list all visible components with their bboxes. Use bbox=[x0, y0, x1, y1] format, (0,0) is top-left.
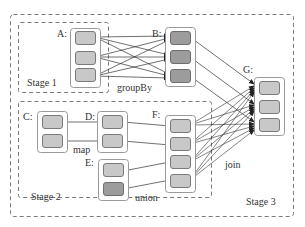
rdd-d-label: D: bbox=[85, 111, 95, 122]
rdd-a-partition-1 bbox=[76, 32, 96, 45]
rdd-b-partition-3 bbox=[171, 70, 191, 83]
rdd-f-partition-2 bbox=[171, 138, 191, 151]
stage-1-label: Stage 1 bbox=[27, 77, 57, 88]
rdd-g-partition-3 bbox=[260, 119, 280, 132]
rdd-b-label: B: bbox=[152, 28, 161, 39]
rdd-f: F: bbox=[152, 109, 196, 193]
rdd-e-partition-1 bbox=[104, 164, 124, 177]
join-edges-from-b bbox=[190, 37, 254, 122]
rdd-c-partition-1 bbox=[43, 116, 63, 129]
rdd-g-partition-2 bbox=[260, 101, 280, 114]
rdd-c-label: C: bbox=[23, 111, 32, 122]
union-label: union bbox=[135, 192, 158, 203]
stage-3-label: Stage 3 bbox=[246, 196, 276, 207]
rdd-c: C: bbox=[23, 111, 68, 153]
rdd-f-label: F: bbox=[152, 109, 160, 120]
rdd-d-partition-2 bbox=[103, 135, 123, 148]
groupby-edges bbox=[95, 36, 169, 78]
rdd-a-label: A: bbox=[57, 28, 67, 39]
join-label: join bbox=[224, 159, 241, 170]
rdd-b-partition-2 bbox=[171, 51, 191, 64]
rdd-g: G: bbox=[243, 64, 285, 136]
rdd-f-partition-1 bbox=[171, 120, 191, 133]
rdd-a-partition-2 bbox=[76, 52, 96, 65]
rdd-e-partition-2 bbox=[104, 183, 124, 196]
rdd-c-partition-2 bbox=[43, 135, 63, 148]
rdd-d-partition-1 bbox=[103, 116, 123, 129]
rdd-e-label: E: bbox=[85, 157, 94, 168]
rdd-a-partition-3 bbox=[76, 69, 96, 82]
rdd-f-partition-3 bbox=[171, 156, 191, 169]
rdd-a: A: bbox=[57, 28, 101, 88]
groupby-label: groupBy bbox=[117, 82, 152, 93]
stage-2-label: Stage 2 bbox=[31, 191, 61, 202]
union-edges bbox=[123, 122, 170, 189]
rdd-stage-diagram: A: B: C: D: E: F: bbox=[0, 0, 305, 227]
rdd-f-partition-4 bbox=[171, 175, 191, 188]
join-edges-from-f bbox=[190, 86, 254, 180]
rdd-b-partition-1 bbox=[171, 32, 191, 45]
rdd-e: E: bbox=[85, 157, 129, 201]
rdd-d: D: bbox=[85, 111, 128, 153]
rdd-g-partition-1 bbox=[260, 82, 280, 95]
rdd-g-label: G: bbox=[243, 64, 253, 75]
map-label: map bbox=[73, 144, 90, 155]
